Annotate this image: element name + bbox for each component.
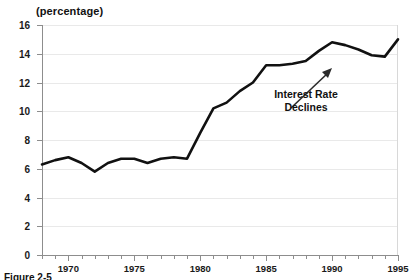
series-layer xyxy=(0,0,418,280)
annotation-line-1: Interest Rate xyxy=(246,88,366,101)
annotation-line-2: Declines xyxy=(246,101,366,114)
chart-figure: (percentage) 0246810121416 1970197519801… xyxy=(0,0,418,280)
figure-caption: Figure 2-5 xyxy=(4,272,52,280)
annotation-interest-rate-declines: Interest Rate Declines xyxy=(246,88,366,114)
